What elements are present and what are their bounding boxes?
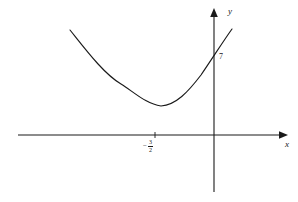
parabola-figure: y x 7 − 3 2 [0,0,298,202]
fraction-numerator: 3 [148,139,153,145]
fraction-denominator: 2 [148,147,153,153]
y-axis-label: y [228,6,232,16]
vertex-x-minus-sign: − [143,143,147,150]
vertex-x-label: − 3 2 [143,139,153,153]
y-intercept-label: 7 [219,52,223,61]
x-axis-arrowhead [279,131,288,139]
parabola-curve [70,29,232,106]
y-axis-arrowhead [210,8,218,17]
x-axis-label: x [285,139,289,149]
vertex-x-fraction: 3 2 [148,139,153,153]
plot-canvas [0,0,298,202]
